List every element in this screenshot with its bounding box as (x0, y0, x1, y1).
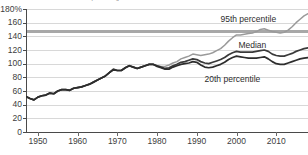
y-tick-label: 60 (0, 87, 22, 95)
series-label-95th-percentile: 95th percentile (220, 14, 276, 24)
series-label-20th-percentile: 20th percentile (205, 74, 261, 84)
series-lines (26, 9, 308, 132)
chart-title-clipped: as a percentage of (0, 0, 308, 5)
y-tick-label: 0 (0, 128, 22, 136)
x-tick-label: 1960 (58, 136, 98, 146)
y-tick-label: 180% (0, 5, 22, 13)
x-axis-line (26, 132, 308, 133)
x-tick-label: 1990 (177, 136, 217, 146)
x-tick-label: 1970 (97, 136, 137, 146)
y-tick-label: 80 (0, 73, 22, 81)
x-tick-label: 2010 (256, 136, 296, 146)
x-tick-label: 1950 (18, 136, 58, 146)
y-tick-label: 100 (0, 59, 22, 67)
series-line-20th-percentile (26, 56, 308, 100)
y-axis-labels: 180%160140120100806040200 (0, 0, 22, 155)
chart-root: as a percentage of 180%16014012010080604… (0, 0, 308, 155)
series-label-median: Median (238, 40, 266, 50)
y-tick-label: 160 (0, 18, 22, 26)
series-line-median (26, 48, 308, 100)
y-tick-label: 140 (0, 32, 22, 40)
chart-title-text: as a percentage of (78, 0, 130, 1)
y-tick-label: 120 (0, 46, 22, 54)
x-tick-label: 1980 (137, 136, 177, 146)
y-tick-label: 40 (0, 100, 22, 108)
x-tick-label: 2000 (217, 136, 257, 146)
y-tick-label: 20 (0, 114, 22, 122)
